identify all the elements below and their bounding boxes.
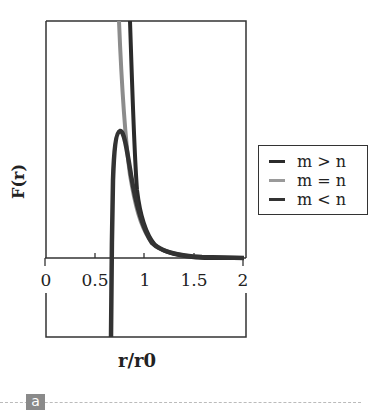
legend-swatch: [269, 179, 285, 182]
y-axis-label: F(r): [9, 162, 28, 202]
series-m-less-n: [111, 131, 244, 337]
x-tick-label: 2: [238, 270, 249, 290]
legend-label: m < n: [297, 190, 346, 209]
legend-item-m-equals-n: m = n: [269, 171, 367, 190]
x-tick-label: 1: [140, 270, 151, 290]
legend-item-m-greater-n: m > n: [269, 152, 367, 171]
legend-swatch: [269, 198, 285, 201]
chart-legend: m > n m = n m < n: [258, 145, 368, 215]
panel-divider: [0, 402, 361, 403]
x-axis-label: r/r0: [118, 350, 156, 371]
legend-label: m > n: [297, 152, 346, 171]
legend-swatch: [269, 160, 285, 163]
series-m-greater-n: [130, 21, 244, 258]
x-tick-label: 0.5: [81, 270, 108, 290]
plot-frame-upper: [46, 21, 246, 258]
x-tick-label: 0: [41, 270, 52, 290]
x-tick-label: 1.5: [180, 270, 207, 290]
legend-item-m-less-n: m < n: [269, 190, 367, 209]
panel-label-badge: a: [26, 394, 45, 410]
legend-label: m = n: [297, 171, 346, 190]
plot-frame-lower: [46, 293, 246, 337]
series-m-equals-n: [119, 21, 244, 258]
